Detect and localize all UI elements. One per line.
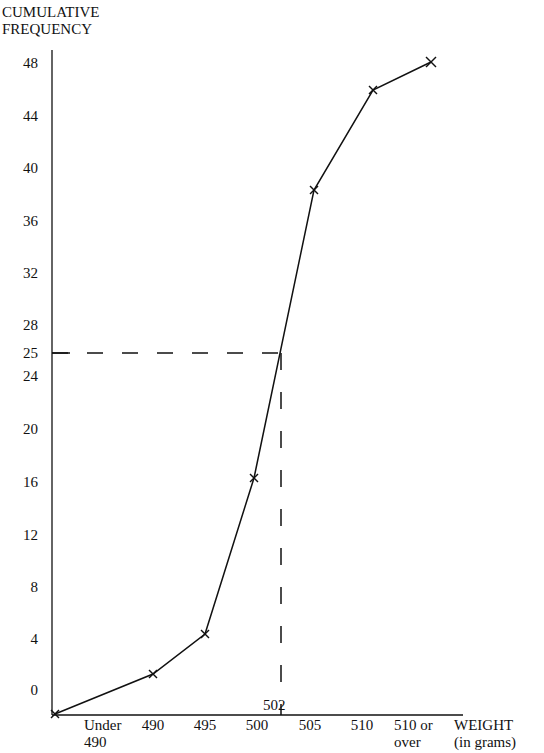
plot-area: [0, 0, 544, 753]
marker-510-icon: [369, 86, 377, 94]
data-markers: [51, 57, 436, 718]
marker-490-icon: [149, 670, 157, 678]
marker-510-or-over-icon: [426, 57, 436, 67]
marker-495-icon: [201, 630, 209, 638]
cumulative-frequency-line: [55, 62, 431, 714]
